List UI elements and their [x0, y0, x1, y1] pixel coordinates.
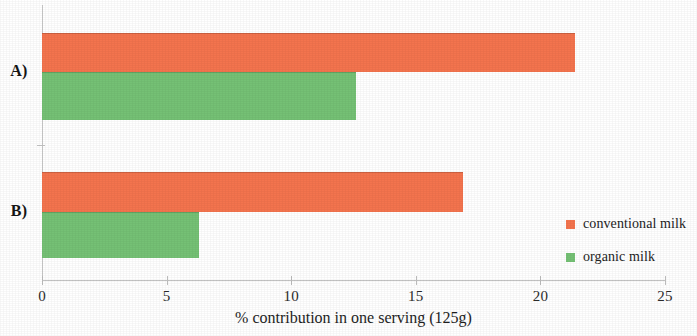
bar-chart: 0510152025 A) B) % contribution in one s… — [0, 0, 697, 336]
legend-item-organic: organic milk — [566, 246, 686, 268]
bar-group-b-organic — [42, 212, 199, 258]
bar-group-a-conventional — [42, 33, 575, 72]
bar-group-a-organic — [42, 72, 356, 120]
category-label-b: B) — [2, 202, 36, 220]
legend-label-organic: organic milk — [583, 249, 655, 265]
legend-label-conventional: conventional milk — [583, 216, 686, 232]
bar-group-b-conventional — [42, 172, 463, 212]
legend-item-conventional: conventional milk — [566, 213, 686, 235]
x-axis-tick-label: 25 — [635, 288, 695, 305]
x-axis-tick-label: 20 — [510, 288, 570, 305]
bar-top-edge — [42, 212, 199, 213]
bar-top-edge — [42, 33, 575, 34]
category-label-a: A) — [2, 62, 36, 80]
x-axis-title: % contribution in one serving (125g) — [42, 309, 665, 327]
chart-legend: conventional milk organic milk — [566, 213, 686, 279]
x-axis-tick-label: 5 — [137, 288, 197, 305]
x-axis-tick-label: 0 — [12, 288, 72, 305]
legend-swatch-icon — [566, 253, 575, 262]
x-axis-line — [42, 280, 666, 281]
x-axis-tick-label: 10 — [261, 288, 321, 305]
bar-top-edge — [42, 72, 356, 73]
x-axis-tick-label: 15 — [386, 288, 446, 305]
bar-top-edge — [42, 172, 463, 173]
legend-swatch-icon — [566, 220, 575, 229]
